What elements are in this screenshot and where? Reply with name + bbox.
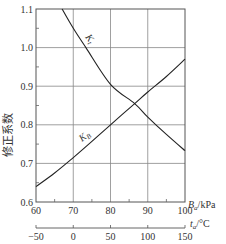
temperature-axis: −50050100150 (28, 225, 192, 242)
grid-lines (36, 9, 185, 202)
series-label-kb: KB (76, 128, 94, 146)
curve-kt (62, 9, 185, 151)
x-tick-label: 90 (143, 205, 153, 216)
x-tick-label: 80 (106, 205, 116, 216)
t-axis-label: ta/°C (190, 218, 210, 231)
t-tick-label: −50 (28, 231, 44, 242)
y-axis-label: 修正系数 (1, 113, 14, 157)
x-tick-label: 70 (68, 205, 78, 216)
y-tick-label: 0.9 (21, 81, 34, 92)
y-tick-label: 1.0 (21, 42, 34, 53)
t-tick-label: 50 (106, 231, 116, 242)
y-tick-label: 0.8 (21, 119, 34, 130)
y-tick-label: 0.7 (21, 158, 34, 169)
x-axis-label-unit: /kPa (198, 199, 216, 210)
t-tick-label: 0 (71, 231, 76, 242)
x-tick-label: 60 (31, 205, 41, 216)
y-tick-label: 1.1 (21, 4, 34, 15)
t-axis-label-unit: /°C (196, 218, 210, 229)
correction-factor-chart: 0.60.70.80.91.01.1 60708090100 −50050100… (0, 0, 226, 244)
t-tick-label: 150 (178, 231, 193, 242)
t-tick-label: 100 (140, 231, 155, 242)
